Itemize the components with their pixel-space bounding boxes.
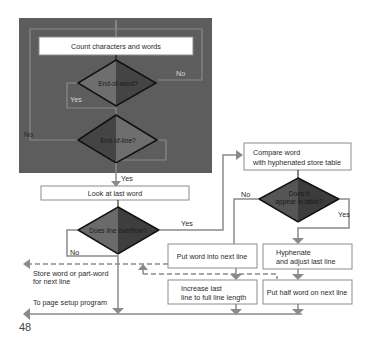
overflow-label: Does line overflow? <box>89 227 147 234</box>
in-table-label-line1: Does it <box>289 190 310 197</box>
half-word-dashed-line <box>143 274 277 279</box>
count-label: Count characters and words <box>71 42 161 51</box>
no-word-label: No <box>176 69 185 78</box>
in-table-label-line2: appear in table? <box>275 198 323 206</box>
end-of-line-label: End-of-line? <box>100 137 136 144</box>
no-line-label: No <box>24 130 33 139</box>
arrow-down-icon <box>230 274 242 280</box>
no-overflow-label: No <box>70 248 79 257</box>
yes-word-label: Yes <box>70 95 82 104</box>
page-number: 48 <box>19 321 31 333</box>
arrow-down-icon <box>292 274 304 280</box>
arrow-down-icon <box>292 238 304 244</box>
in-table-no-connector <box>234 199 259 244</box>
put-next-label: Put word into next line <box>177 252 248 261</box>
page-setup-label: To page setup program <box>33 298 107 307</box>
hyphenate-label-line2: and adjust last line <box>276 257 336 266</box>
hyphenate-label-line1: Hyphenate <box>276 248 311 257</box>
end-of-word-label: End-of-word? <box>98 80 138 87</box>
arrow-right-icon <box>236 150 243 160</box>
put-half-label: Put half word on next line <box>267 288 348 297</box>
increase-label-line1: Increase last <box>181 284 222 293</box>
yes-line-label: Yes <box>121 174 133 183</box>
yes-in-table-label: Yes <box>338 210 350 219</box>
compare-label-line1: Compare word <box>253 148 300 157</box>
compare-label-line2: with hyphenated store table <box>252 158 341 167</box>
arrow-down-icon <box>112 308 124 314</box>
arrow-left-icon <box>23 259 30 269</box>
no-in-table-label: No <box>241 190 250 199</box>
store-label-line2: for next line <box>33 277 70 286</box>
arrow-up-icon <box>138 264 148 270</box>
increase-label-line2: line to full line length <box>181 293 246 302</box>
flowchart: Count characters and words End-of-word? … <box>0 0 372 345</box>
arrow-left-icon <box>23 308 30 320</box>
look-label: Look at last word <box>88 189 142 198</box>
yes-overflow-label: Yes <box>181 219 193 228</box>
